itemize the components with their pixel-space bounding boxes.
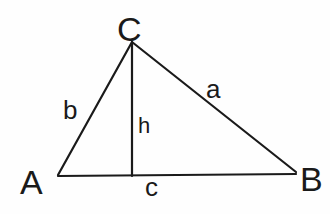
vertex-label-a: A [20,165,43,199]
triangle-diagram: C A B a b c h [0,0,330,214]
side-c-line [58,174,296,176]
triangle-drawing [0,0,330,214]
side-label-a: a [206,76,220,102]
vertex-label-c: C [117,12,142,46]
vertex-label-b: B [300,162,323,196]
side-label-b: b [63,97,77,123]
side-label-c: c [145,174,158,200]
side-a-line [132,42,296,172]
altitude-label-h: h [138,115,150,137]
